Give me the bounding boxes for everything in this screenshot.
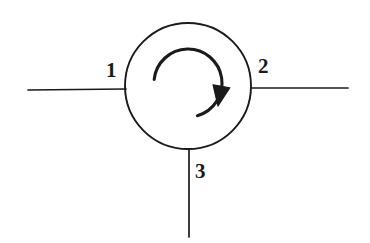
circulator-figure: 1 2 3 (0, 0, 370, 243)
port-2-label: 2 (258, 56, 269, 77)
port-1-label: 1 (106, 60, 117, 81)
port-1-lead-line (28, 89, 126, 90)
circulator-diagram-svg (0, 0, 370, 243)
port-3-label: 3 (195, 161, 206, 182)
figure-background (0, 0, 370, 243)
